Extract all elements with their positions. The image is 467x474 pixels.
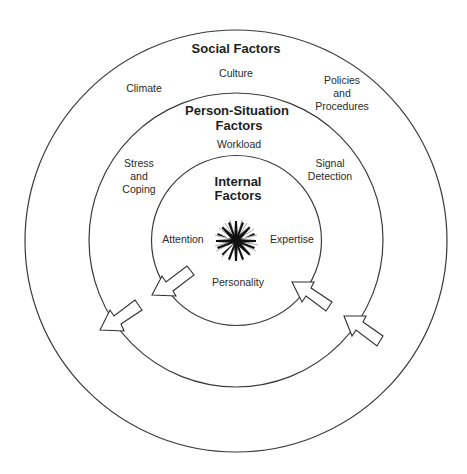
label-signal-line-2: Detection <box>308 170 353 182</box>
label-stress-line-1: Stress <box>124 157 154 169</box>
label-stress-line-3: Coping <box>122 183 155 195</box>
label-personality: Personality <box>212 276 265 288</box>
arrow-internal-to-person-situation-icon <box>152 266 194 296</box>
label-workload: Workload <box>217 138 261 150</box>
starburst-icon <box>215 220 258 261</box>
label-policies-and-procedures: Policies and Procedures <box>315 74 369 112</box>
label-policies-line-2: and <box>333 87 351 99</box>
internal-title-line-2: Factors <box>215 188 262 203</box>
arrow-social-to-person-situation-icon <box>344 316 383 346</box>
label-stress-line-2: and <box>130 170 148 182</box>
label-stress-and-coping: Stress and Coping <box>122 157 155 195</box>
label-expertise: Expertise <box>270 233 314 245</box>
internal-title-line-1: Internal <box>215 174 262 189</box>
label-climate: Climate <box>126 82 162 94</box>
social-factors-title: Social Factors <box>192 41 281 56</box>
label-signal-line-1: Signal <box>315 157 344 169</box>
arrow-person-situation-to-internal-icon <box>292 282 332 311</box>
factors-diagram: Social Factors Climate Culture Policies … <box>0 0 467 474</box>
label-policies-line-3: Procedures <box>315 100 369 112</box>
label-attention: Attention <box>162 233 204 245</box>
person-situation-title-line-1: Person-Situation <box>185 103 289 118</box>
person-situation-title-line-2: Factors <box>216 118 263 133</box>
arrow-person-situation-to-social-icon <box>100 300 142 331</box>
label-policies-line-1: Policies <box>324 74 360 86</box>
label-culture: Culture <box>219 67 253 79</box>
label-signal-detection: Signal Detection <box>308 157 353 182</box>
